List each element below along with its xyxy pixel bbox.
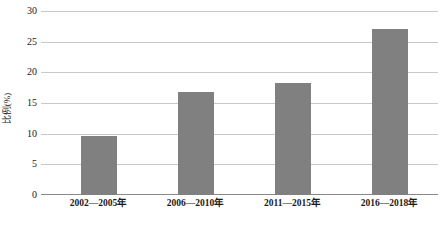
plot-area: 051015202530 [50,11,438,195]
x-axis-label: 2016—2018年 [361,199,419,209]
y-tick-label: 25 [27,37,37,47]
bar [275,83,311,195]
bar [178,92,214,195]
y-axis-title-text: 比例(%) [4,92,13,124]
y-tick-label: 0 [32,190,37,200]
bar-chart: 比例(%) 051015202530 2002—2005年2006—2010年2… [0,0,445,234]
bar [81,136,117,195]
y-tick-mark [41,42,50,43]
bars [50,11,438,195]
x-axis-label: 2011—2015年 [264,199,321,209]
bar [372,29,408,195]
y-tick-label: 15 [27,98,37,108]
x-axis-label: 2006—2010年 [167,199,225,209]
y-tick-mark [41,194,50,195]
y-axis-title: 比例(%) [1,78,15,138]
y-tick-label: 5 [32,159,37,169]
x-axis-categories: 2002—2005年2006—2010年2011—2015年2016—2018年 [50,199,438,217]
y-tick-label: 20 [27,67,37,77]
y-tick-label: 10 [27,129,37,139]
y-tick-mark [41,72,50,73]
y-tick-mark [41,134,50,135]
y-tick-label: 30 [27,6,37,16]
y-tick-mark [41,103,50,104]
y-tick-mark [41,11,50,12]
x-axis-label: 2002—2005年 [70,199,128,209]
y-tick-mark [41,164,50,165]
